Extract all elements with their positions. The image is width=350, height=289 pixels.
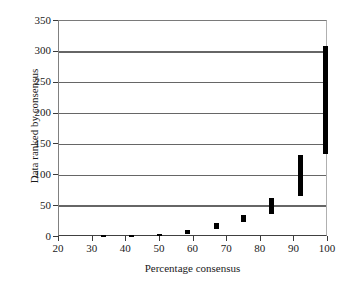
chart-figure: 2030405060708090100 05010015020025030035… bbox=[0, 0, 350, 289]
y-axis-tick-label: 0 bbox=[11, 231, 51, 242]
gridline-250 bbox=[59, 82, 326, 84]
x-axis-tick bbox=[193, 236, 194, 241]
gridline-50 bbox=[59, 205, 326, 207]
range-bar bbox=[323, 46, 328, 155]
y-axis-tick bbox=[53, 51, 58, 52]
x-axis-tick bbox=[58, 236, 59, 241]
gridline-350 bbox=[59, 20, 326, 21]
y-axis-tick-label: 350 bbox=[11, 15, 51, 26]
y-axis-tick bbox=[53, 20, 58, 21]
y-axis-tick bbox=[53, 143, 58, 144]
y-axis-tick bbox=[53, 82, 58, 83]
gridline-100 bbox=[59, 175, 326, 177]
y-axis-title: Data ranked by consensus bbox=[28, 26, 40, 226]
range-bar bbox=[269, 198, 274, 215]
range-bar bbox=[241, 215, 246, 222]
range-bar bbox=[101, 235, 106, 237]
x-axis-tick bbox=[260, 236, 261, 241]
y-axis-tick bbox=[53, 236, 58, 237]
x-axis-tick bbox=[226, 236, 227, 241]
x-axis-tick bbox=[159, 236, 160, 241]
range-bar bbox=[185, 230, 190, 234]
x-axis-tick bbox=[125, 236, 126, 241]
x-axis-tick-label: 100 bbox=[307, 242, 347, 254]
x-axis-tick bbox=[92, 236, 93, 241]
x-axis-title: Percentage consensus bbox=[58, 262, 327, 274]
y-axis-tick bbox=[53, 174, 58, 175]
y-axis-tick bbox=[53, 205, 58, 206]
x-axis-tick bbox=[327, 236, 328, 241]
plot-area bbox=[58, 20, 327, 236]
gridline-150 bbox=[59, 144, 326, 146]
x-axis-tick bbox=[293, 236, 294, 241]
y-axis-tick bbox=[53, 113, 58, 114]
range-bar bbox=[129, 235, 134, 237]
gridline-300 bbox=[59, 51, 326, 53]
range-bar bbox=[298, 155, 303, 196]
range-bar bbox=[214, 223, 219, 229]
gridline-200 bbox=[59, 113, 326, 115]
